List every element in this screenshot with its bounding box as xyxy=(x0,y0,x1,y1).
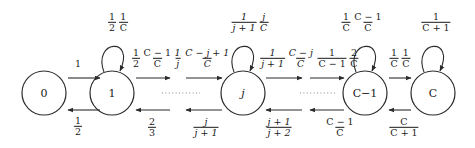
label-edge-1-to-right: 1 2 C − 1 C xyxy=(132,48,172,68)
label-edge-right-to-1: 2 3 xyxy=(148,117,156,137)
label-edge-c-to-c-minus-1: C C + 1 xyxy=(389,117,418,137)
label-self-loop-1: 1 2 1 C xyxy=(108,12,128,32)
label-self-loop-c: 1 C + 1 xyxy=(421,12,450,32)
label-edge-to-c-minus-1: 1 C − 1 2 C xyxy=(317,48,358,68)
self-loop-1 xyxy=(102,46,124,72)
label-edge-to-j: 1 j C − j + 1 C xyxy=(174,48,231,68)
state-label-0: 0 xyxy=(41,87,48,100)
state-label-c-minus-1: C−1 xyxy=(353,87,378,100)
state-label-j: j xyxy=(238,87,245,100)
label-edge-c-minus-1-to-c: 1 C 1 C xyxy=(389,48,410,68)
label-edge-right-to-j: j + 1 j + 2 xyxy=(267,117,292,137)
label-edge-j-back: j j + 1 xyxy=(194,117,219,137)
self-loop-c xyxy=(422,46,444,72)
label-edge-0-to-1: 1 xyxy=(75,59,81,69)
label-edge-1-to-0: 1 2 xyxy=(74,116,82,136)
label-self-loop-j: 1 j + 1 j C xyxy=(232,12,269,32)
label-edge-c-minus-1-back: C − 1 C xyxy=(325,117,354,137)
state-label-1: 1 xyxy=(109,87,116,100)
label-edge-j-to-right: 1 j + 1 C − j C xyxy=(260,48,314,68)
label-self-loop-c-minus-1: 1 C C − 1 C xyxy=(341,12,382,32)
state-label-c: C xyxy=(429,87,437,100)
self-loop-j xyxy=(232,46,254,72)
